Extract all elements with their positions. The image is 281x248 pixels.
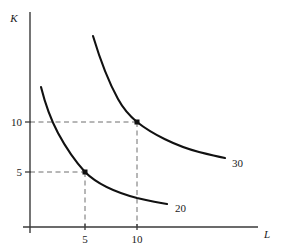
curve-label-20: 20 xyxy=(175,202,187,214)
point-marker-5-5 xyxy=(83,170,88,175)
marked-points xyxy=(83,120,140,175)
x-axis-label: L xyxy=(263,228,270,240)
curve-label-30: 30 xyxy=(232,157,244,169)
point-marker-10-10 xyxy=(135,120,140,125)
x-tick-label-5: 5 xyxy=(82,233,88,245)
chart-canvas: K L 10 5 5 10 20 30 xyxy=(0,0,281,248)
y-tick-label-5: 5 xyxy=(17,166,23,178)
y-tick-label-10: 10 xyxy=(11,116,23,128)
y-axis-label: K xyxy=(9,12,18,24)
tick-marks xyxy=(25,122,137,230)
isoquant-curve-30 xyxy=(93,36,225,158)
isoquant-curve-20 xyxy=(41,87,167,204)
x-tick-label-10: 10 xyxy=(132,233,144,245)
isoquant-chart: K L 10 5 5 10 20 30 xyxy=(0,0,281,248)
